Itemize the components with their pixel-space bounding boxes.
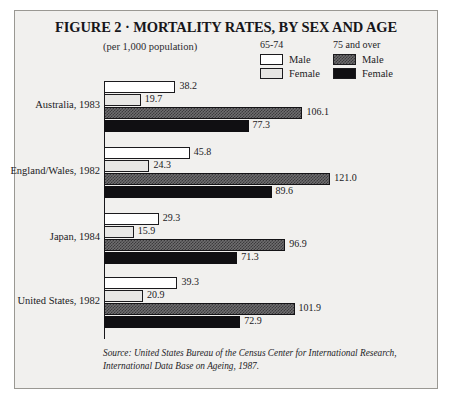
- bar-value-label: 71.3: [241, 251, 259, 262]
- legend-item: Female: [260, 68, 320, 79]
- bar-row: 72.9: [104, 316, 434, 328]
- bar-value-label: 39.3: [181, 276, 199, 287]
- bar-value-label: 106.1: [306, 106, 329, 117]
- bar-group: Japan, 198429.315.996.971.3: [15, 213, 439, 267]
- bar: [104, 316, 240, 328]
- bar-row: 39.3: [104, 277, 434, 289]
- bar-row: 19.7: [104, 94, 434, 106]
- light-gray-swatch-icon: [260, 68, 283, 79]
- legend-item-label: Male: [289, 54, 311, 65]
- bar-row: 101.9: [104, 303, 434, 315]
- page-title: FIGURE 2 · MORTALITY RATES, BY SEX AND A…: [15, 19, 437, 36]
- category-label: England/Wales, 1982: [10, 165, 100, 176]
- bar: [104, 277, 177, 289]
- bar-row: 121.0: [104, 173, 434, 185]
- bar: [104, 160, 149, 172]
- legend-item: Male: [260, 54, 320, 65]
- bar-row: 77.3: [104, 120, 434, 132]
- bar-value-label: 72.9: [244, 315, 262, 326]
- legend-item-label: Male: [362, 54, 384, 65]
- bar: [104, 147, 190, 159]
- bar: [104, 81, 175, 93]
- bar: [104, 226, 134, 238]
- bar-row: 29.3: [104, 213, 434, 225]
- bar-group: United States, 198239.320.9101.972.9: [15, 277, 439, 331]
- legend-item-label: Female: [362, 68, 393, 79]
- bar: [104, 239, 285, 251]
- category-label: United States, 1982: [17, 295, 100, 306]
- legend-group-75-and-over: 75 and over Male Female: [333, 39, 393, 82]
- bar-row: 20.9: [104, 290, 434, 302]
- bar: [104, 213, 159, 225]
- bar-row: 45.8: [104, 147, 434, 159]
- bar-row: 106.1: [104, 107, 434, 119]
- bar: [104, 252, 237, 264]
- bar-row: 24.3: [104, 160, 434, 172]
- bar-row: 89.6: [104, 186, 434, 198]
- bar-value-label: 45.8: [194, 146, 212, 157]
- category-label: Australia, 1983: [35, 99, 100, 110]
- bar-value-label: 38.2: [179, 80, 197, 91]
- bar-value-label: 96.9: [289, 238, 307, 249]
- legend-item: Female: [333, 68, 393, 79]
- bar: [104, 173, 330, 185]
- bar: [104, 120, 249, 132]
- bar: [104, 94, 141, 106]
- category-label: Japan, 1984: [50, 231, 100, 242]
- legend-group-65-74: 65-74 Male Female: [260, 39, 320, 82]
- bar-group: England/Wales, 198245.824.3121.089.6: [15, 147, 439, 201]
- bar-value-label: 77.3: [253, 119, 271, 130]
- bar-value-label: 24.3: [153, 159, 171, 170]
- bar-row: 71.3: [104, 252, 434, 264]
- legend-heading: 75 and over: [333, 39, 393, 50]
- bar-value-label: 121.0: [334, 172, 357, 183]
- bar-group: Australia, 198338.219.7106.177.3: [15, 81, 439, 135]
- bar: [104, 186, 272, 198]
- white-swatch-icon: [260, 54, 283, 65]
- bar-value-label: 29.3: [163, 212, 181, 223]
- plot-area: Australia, 198338.219.7106.177.3England/…: [15, 81, 439, 343]
- bar-value-label: 89.6: [276, 185, 294, 196]
- bar: [104, 303, 295, 315]
- bar-value-label: 19.7: [145, 93, 163, 104]
- bar-value-label: 15.9: [138, 225, 156, 236]
- legend-item-label: Female: [289, 68, 320, 79]
- legend-heading: 65-74: [260, 39, 320, 50]
- bar-value-label: 20.9: [147, 289, 165, 300]
- black-swatch-icon: [333, 68, 356, 79]
- stippled-gray-swatch-icon: [333, 54, 356, 65]
- legend-item: Male: [333, 54, 393, 65]
- bar-row: 96.9: [104, 239, 434, 251]
- chart-subtitle: (per 1,000 population): [103, 41, 197, 52]
- bar-value-label: 101.9: [299, 302, 322, 313]
- bar: [104, 107, 302, 119]
- figure-frame: FIGURE 2 · MORTALITY RATES, BY SEX AND A…: [14, 10, 438, 389]
- bar: [104, 290, 143, 302]
- bar-row: 38.2: [104, 81, 434, 93]
- source-note: Source: United States Bureau of the Cens…: [103, 347, 421, 372]
- bar-row: 15.9: [104, 226, 434, 238]
